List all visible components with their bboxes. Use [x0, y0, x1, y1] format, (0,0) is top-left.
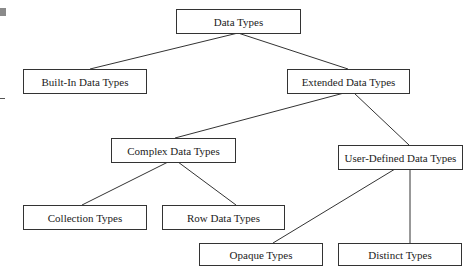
node-label: Data Types: [214, 16, 263, 28]
node-extended-data-types: Extended Data Types: [287, 69, 410, 94]
node-label: Built-In Data Types: [41, 76, 128, 88]
node-complex-data-types: Complex Data Types: [111, 138, 236, 163]
node-collection-types: Collection Types: [23, 205, 147, 230]
connector-lines: [0, 0, 475, 279]
node-opaque-types: Opaque Types: [199, 243, 323, 266]
data-types-diagram: Data Types Built-In Data Types Extended …: [0, 0, 475, 279]
node-label: User-Defined Data Types: [345, 152, 457, 164]
node-row-data-types: Row Data Types: [162, 205, 285, 230]
node-label: Distinct Types: [368, 249, 432, 261]
node-user-defined-data-types: User-Defined Data Types: [338, 145, 463, 170]
node-distinct-types: Distinct Types: [338, 243, 462, 266]
node-label: Row Data Types: [187, 212, 260, 224]
node-label: Extended Data Types: [302, 76, 396, 88]
node-label: Opaque Types: [230, 249, 293, 261]
node-built-in-data-types: Built-In Data Types: [23, 69, 147, 94]
node-label: Complex Data Types: [127, 145, 220, 157]
node-label: Collection Types: [48, 212, 123, 224]
node-data-types: Data Types: [176, 9, 301, 34]
